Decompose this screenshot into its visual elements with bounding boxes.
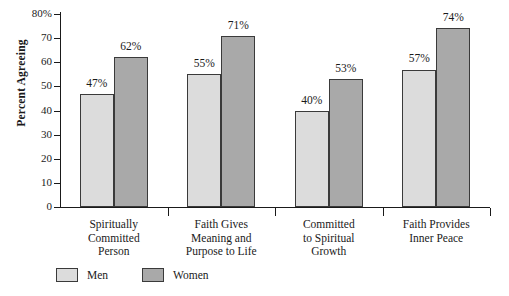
x-axis-category-label: Committedto SpiritualGrowth [275,218,383,259]
bar-value-label: 62% [108,40,154,52]
y-axis-tick-label: 30 [0,127,52,139]
x-axis-category-label: Faith GivesMeaning andPurpose to Life [168,218,276,259]
bar-value-label: 71% [215,19,261,31]
y-axis-tick-label: 0 [0,200,52,212]
legend-label-women: Women [173,269,208,281]
legend-item-men: Men [56,268,142,282]
x-axis-group-separator-tick [168,208,169,216]
bar-men-1 [80,94,114,207]
x-axis-group-separator-tick [490,208,491,216]
bar-men-3 [295,111,329,208]
category-label-line: Faith Gives [168,218,276,232]
x-axis-group-separator-tick [275,208,276,216]
y-axis-tick-label: 20 [0,151,52,163]
category-label-line: Committed [275,218,383,232]
y-axis-tick-label: 60 [0,55,52,67]
x-axis-category-label: Faith ProvidesInner Peace [383,218,491,245]
category-label-line: Person [60,245,168,259]
bar-women-4 [436,28,470,207]
x-axis-group-separator-tick [383,208,384,216]
y-axis-tick-label: 80% [0,7,52,19]
bar-women-1 [114,57,148,207]
bar-women-3 [329,79,363,207]
category-label-line: to Spiritual [275,232,383,246]
category-label-line: Spiritually [60,218,168,232]
y-axis-tick-label: 70 [0,31,52,43]
category-label-line: Purpose to Life [168,245,276,259]
y-axis-tick-label: 50 [0,79,52,91]
grouped-bar-chart: Percent Agreeing 80%706050403020100 47%6… [0,0,509,296]
bar-men-2 [187,74,221,207]
bar-women-2 [221,36,255,207]
legend-swatch-men [56,268,78,282]
legend-label-men: Men [87,269,108,281]
bar-value-label: 74% [430,11,476,23]
category-label-line: Inner Peace [383,232,491,246]
y-axis-tick-label: 40 [0,103,52,115]
category-label-line: Meaning and [168,232,276,246]
x-axis-category-label: SpirituallyCommittedPerson [60,218,168,259]
y-axis-tick-label: 10 [0,175,52,187]
category-label-line: Growth [275,245,383,259]
plot-area: 47%62%55%71%40%53%57%74% [60,14,490,207]
bar-value-label: 53% [323,62,369,74]
category-label-line: Faith Provides [383,218,491,232]
category-label-line: Committed [60,232,168,246]
bar-men-4 [402,70,436,208]
legend-swatch-women [142,268,164,282]
legend-item-women: Women [142,268,242,282]
chart-legend: MenWomen [56,268,243,282]
